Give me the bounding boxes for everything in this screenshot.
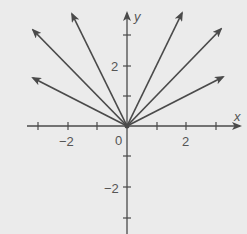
origin-point [125,124,130,129]
ray-right-slope-2 [127,13,182,126]
x-tick-label-neg2: −2 [59,134,74,149]
ray-right-slope-1 [127,29,221,126]
ray-right-slope-half [127,77,223,126]
x-tick-label-2: 2 [182,134,189,149]
y-tick-label-neg2: −2 [104,181,119,196]
y-axis-label: y [133,9,142,24]
ray-left-slope-2 [72,14,127,126]
ray-left-slope-half [33,78,127,126]
origin-label: 0 [115,133,122,148]
x-axis-label: x [233,109,241,124]
y-tick-label-2: 2 [111,59,118,74]
ray-left-slope-1 [33,30,127,126]
coordinate-diagram: −2 0 2 2 −2 x y [0,0,247,234]
rays [33,13,223,126]
